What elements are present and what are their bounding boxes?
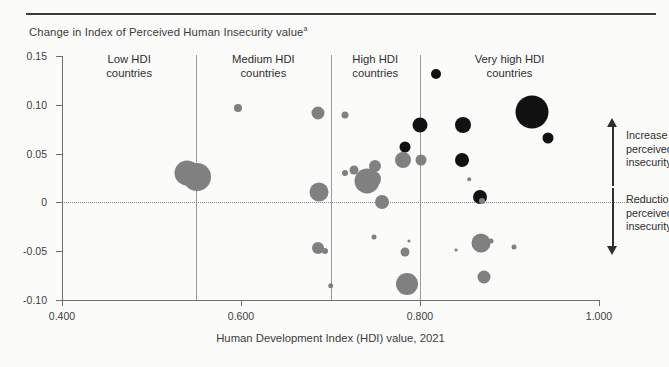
data-bubble <box>372 235 377 240</box>
y-tick-mark: 0.05 <box>56 154 62 155</box>
y-tick-label: 0.05 <box>27 148 47 160</box>
annotation-line: Reduction in <box>626 193 669 207</box>
data-bubble <box>455 153 469 167</box>
y-tick-mark: 0.10 <box>56 105 62 106</box>
x-tick-mark <box>420 300 421 306</box>
up-arrow-shaft <box>612 126 614 186</box>
zero-reference-line <box>62 202 659 203</box>
data-bubble <box>467 178 471 182</box>
reduction-label: Reduction inperceivedinsecurity <box>626 193 669 234</box>
data-bubble <box>365 171 381 187</box>
x-axis-line <box>62 300 599 301</box>
x-tick-label: 0.400 <box>49 310 75 322</box>
y-tick-mark: 0.15 <box>56 56 62 57</box>
group-label-high: High HDIcountries <box>352 52 398 80</box>
x-tick-label: 0.600 <box>228 310 254 322</box>
group-label-line: Very high HDI <box>475 52 545 66</box>
group-label-line: Low HDI <box>106 52 152 66</box>
data-bubble <box>415 154 426 165</box>
group-label-line: countries <box>232 66 295 80</box>
group-label-very_high: Very high HDIcountries <box>475 52 545 80</box>
down-arrow-icon <box>607 246 617 255</box>
group-label-line: countries <box>352 66 398 80</box>
down-arrow-shaft <box>612 188 614 248</box>
data-bubble <box>399 141 410 152</box>
data-bubble <box>413 118 428 133</box>
y-tick-label: 0.10 <box>27 99 47 111</box>
data-bubble <box>542 133 553 144</box>
data-bubble <box>311 107 324 120</box>
data-bubble <box>322 248 328 254</box>
data-bubble <box>395 152 411 168</box>
group-divider-line <box>420 55 421 300</box>
data-bubble <box>431 69 441 79</box>
data-bubble <box>511 244 516 249</box>
figure-container: Change in Index of Perceived Human Insec… <box>0 0 669 367</box>
data-bubble <box>309 183 328 202</box>
data-bubble <box>342 170 348 176</box>
group-divider-line <box>331 55 332 300</box>
direction-annotation: Increase inperceivedinsecurity Reduction… <box>600 56 669 300</box>
x-tick-label: 0.800 <box>407 310 433 322</box>
group-label-medium: Medium HDIcountries <box>232 52 295 80</box>
data-bubble <box>341 111 348 118</box>
y-axis-caption-superscript: a <box>304 25 308 32</box>
data-bubble <box>454 248 457 251</box>
y-axis-line <box>62 56 63 300</box>
data-bubble <box>400 248 409 257</box>
data-bubble <box>471 233 490 252</box>
y-axis-caption-text: Change in Index of Perceived Human Insec… <box>29 26 304 38</box>
data-bubble <box>183 163 211 191</box>
increase-label: Increase inperceivedinsecurity <box>626 129 669 170</box>
y-tick-mark: -0.05 <box>56 251 62 252</box>
data-bubble <box>478 270 491 283</box>
data-bubble <box>328 283 334 289</box>
data-bubble <box>396 273 418 295</box>
y-tick-label: 0.15 <box>27 50 47 62</box>
x-tick-mark <box>241 300 242 306</box>
y-tick-label: -0.05 <box>23 245 47 257</box>
data-bubble <box>375 195 389 209</box>
annotation-line: Increase in <box>626 129 669 143</box>
y-tick-label: -0.10 <box>23 294 47 306</box>
annotation-line: perceived <box>626 207 669 221</box>
x-tick-mark <box>599 300 600 306</box>
group-label-line: Medium HDI <box>232 52 295 66</box>
data-bubble <box>488 239 493 244</box>
group-label-line: countries <box>106 66 152 80</box>
y-axis-caption: Change in Index of Perceived Human Insec… <box>29 25 308 38</box>
group-label-low: Low HDIcountries <box>106 52 152 80</box>
data-bubble <box>234 104 242 112</box>
x-tick-mark <box>62 300 63 306</box>
group-label-line: High HDI <box>352 52 398 66</box>
data-bubble <box>479 198 485 204</box>
y-tick-label: 0 <box>41 196 47 208</box>
data-bubble <box>515 95 548 128</box>
annotation-line: perceived <box>626 143 669 157</box>
x-axis-title: Human Development Index (HDI) value, 202… <box>62 332 599 344</box>
x-tick-label: 1.000 <box>586 310 612 322</box>
data-bubble <box>408 239 411 242</box>
group-label-line: countries <box>475 66 545 80</box>
annotation-line: insecurity <box>626 156 669 170</box>
data-bubble <box>455 117 471 133</box>
plot-area: 0.150.100.050-0.05-0.10 0.4000.6000.8001… <box>62 56 599 300</box>
annotation-line: insecurity <box>626 220 669 234</box>
top-rule-divider <box>26 13 656 15</box>
